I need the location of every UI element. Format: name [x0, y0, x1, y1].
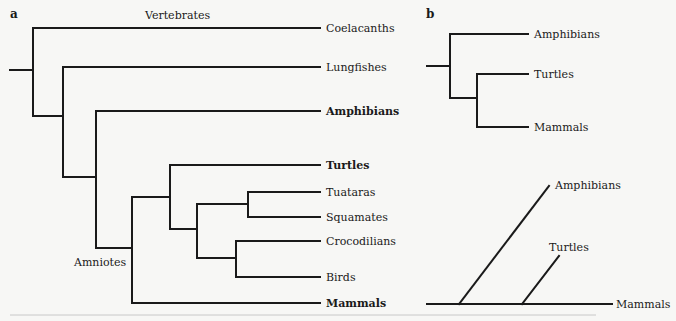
taxon-label-squamates: Squamates [326, 211, 388, 224]
b-rect-label-turtles: Turtles [534, 68, 574, 81]
b-diag-label-amphibians: Amphibians [554, 179, 621, 192]
clade-label-vertebrates: Vertebrates [144, 9, 210, 22]
b-diag-label-turtles: Turtles [549, 241, 589, 254]
taxon-label-tuataras: Tuataras [326, 186, 376, 199]
panel-a-tree [10, 28, 320, 303]
taxon-label-mammals: Mammals [326, 297, 386, 310]
taxon-label-turtles: Turtles [326, 159, 369, 172]
clade-label-amniotes: Amniotes [73, 256, 127, 269]
taxon-label-lungfishes: Lungfishes [326, 61, 387, 74]
phylogeny-figure: a b Vertebra [0, 0, 676, 321]
taxon-label-crocodilians: Crocodilians [326, 235, 396, 248]
panel-b-label: b [426, 7, 434, 21]
d-branch-turtles [522, 256, 559, 304]
b-diag-label-mammals: Mammals [616, 298, 671, 311]
taxon-label-birds: Birds [326, 271, 356, 284]
b-rect-label-mammals: Mammals [534, 121, 589, 134]
b-rect-label-amphibians: Amphibians [533, 28, 600, 41]
taxon-label-coelacanths: Coelacanths [326, 22, 395, 35]
panel-b-rectangular-tree [427, 34, 528, 127]
panel-a-label: a [10, 7, 18, 21]
taxon-label-amphibians: Amphibians [325, 105, 399, 118]
